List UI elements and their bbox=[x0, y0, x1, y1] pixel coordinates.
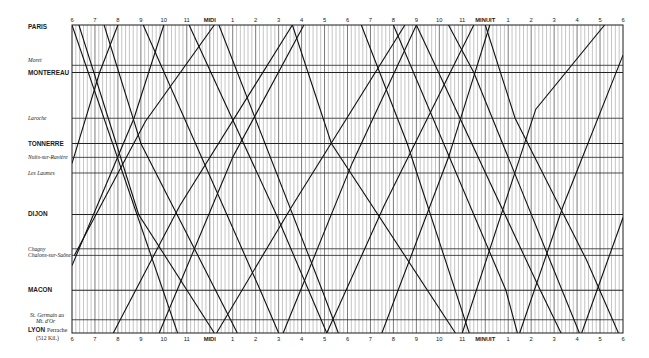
train-line bbox=[113, 25, 292, 333]
station-label: LYON Perrache bbox=[28, 326, 68, 333]
hour-tick: 7 bbox=[93, 336, 96, 342]
hour-tick: 11 bbox=[459, 17, 465, 23]
hour-tick: 9 bbox=[415, 17, 418, 23]
hour-tick: MIDI bbox=[204, 17, 217, 23]
hour-tick: 1 bbox=[231, 336, 234, 342]
train-line bbox=[327, 25, 474, 333]
station-label: Chalons-sur-Saône bbox=[28, 252, 72, 258]
train-line bbox=[217, 25, 405, 333]
hour-tick: MIDI bbox=[204, 336, 217, 342]
station-label: Laroche bbox=[27, 115, 47, 121]
hour-tick: 4 bbox=[300, 17, 304, 23]
hour-tick: 4 bbox=[575, 17, 579, 23]
hour-tick: MINUIT bbox=[475, 17, 495, 23]
hour-tick: 4 bbox=[300, 336, 304, 342]
hour-tick: 5 bbox=[323, 336, 326, 342]
hour-tick: 8 bbox=[116, 336, 119, 342]
hour-tick: 9 bbox=[415, 336, 418, 342]
train-line bbox=[462, 25, 604, 333]
train-line bbox=[582, 218, 623, 334]
distance-note: (512 Kil.) bbox=[36, 335, 59, 342]
hour-tick: 1 bbox=[507, 336, 510, 342]
hour-tick: 6 bbox=[346, 336, 349, 342]
hour-tick: 7 bbox=[369, 17, 372, 23]
train-line bbox=[72, 25, 178, 333]
train-line bbox=[283, 25, 416, 333]
hour-tick: 2 bbox=[530, 336, 533, 342]
train-line bbox=[361, 25, 469, 333]
hour-tick: 6 bbox=[621, 17, 624, 23]
station-label: Nuits-sur-Ravière bbox=[27, 154, 68, 160]
hour-tick: 5 bbox=[598, 17, 601, 23]
station-label: PARIS bbox=[28, 23, 48, 30]
station-label: Moret bbox=[27, 57, 42, 63]
hour-tick: 8 bbox=[392, 17, 395, 23]
hour-tick: MINUIT bbox=[475, 336, 495, 342]
hour-tick: 11 bbox=[184, 336, 190, 342]
hour-tick: 9 bbox=[139, 336, 142, 342]
train-line bbox=[449, 25, 580, 333]
hour-tick: 3 bbox=[277, 336, 280, 342]
train-line bbox=[79, 25, 214, 333]
hour-tick: 8 bbox=[116, 17, 119, 23]
hour-tick: 10 bbox=[436, 336, 442, 342]
station-label: Chagny bbox=[28, 246, 46, 252]
hour-tick: 10 bbox=[161, 336, 167, 342]
hour-tick: 11 bbox=[184, 17, 190, 23]
train-schedule-chart: PARISMoretMONTEREAULarocheTONNERRENuits-… bbox=[0, 0, 649, 358]
station-label: DIJON bbox=[28, 210, 48, 217]
hour-tick: 6 bbox=[70, 17, 73, 23]
hour-tick: 9 bbox=[139, 17, 142, 23]
hour-tick: 10 bbox=[161, 17, 167, 23]
hour-tick: 5 bbox=[323, 17, 326, 23]
hour-tick: 6 bbox=[346, 17, 349, 23]
hour-tick: 6 bbox=[621, 336, 624, 342]
hour-tick: 2 bbox=[530, 17, 533, 23]
hour-tick: 3 bbox=[553, 17, 556, 23]
hour-tick: 3 bbox=[277, 17, 280, 23]
station-label: MONTEREAU bbox=[28, 69, 70, 76]
station-label: St. Germain au bbox=[30, 312, 64, 318]
top-hour-axis: 67891011MIDI1234567891011MINUIT123456 bbox=[70, 17, 624, 23]
hour-tick: 1 bbox=[231, 17, 234, 23]
hour-tick: 2 bbox=[254, 17, 257, 23]
hour-tick: 3 bbox=[553, 336, 556, 342]
station-label: TONNERRE bbox=[28, 140, 64, 147]
hour-tick: 8 bbox=[392, 336, 395, 342]
station-label: Mt. d'Or bbox=[35, 318, 56, 324]
hour-tick: 7 bbox=[93, 17, 96, 23]
station-label: Les Laumes bbox=[27, 170, 55, 176]
train-line bbox=[393, 25, 517, 333]
hour-tick: 11 bbox=[459, 336, 465, 342]
train-line bbox=[416, 25, 561, 333]
hour-tick: 1 bbox=[507, 17, 510, 23]
hour-tick: 2 bbox=[254, 336, 257, 342]
hour-tick: 5 bbox=[598, 336, 601, 342]
station-labels: PARISMoretMONTEREAULarocheTONNERRENuits-… bbox=[27, 23, 72, 342]
station-label: MACON bbox=[28, 286, 53, 293]
hour-tick: 6 bbox=[70, 336, 73, 342]
bottom-hour-axis: 67891011MIDI1234567891011MINUIT123456 bbox=[70, 336, 624, 342]
hour-tick: 10 bbox=[436, 17, 442, 23]
hour-tick: 7 bbox=[369, 336, 372, 342]
hour-tick: 4 bbox=[575, 336, 579, 342]
